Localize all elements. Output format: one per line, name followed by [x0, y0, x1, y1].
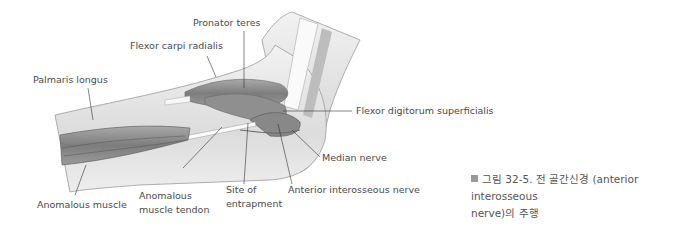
figure-caption: 그림 32-5. 전 골간신경 (anterior interosseous n… — [471, 171, 691, 222]
label-palmaris-longus: Palmaris longus — [33, 74, 108, 86]
bullet-square-icon — [471, 175, 478, 182]
label-flexor-carpi-radialis: Flexor carpi radialis — [130, 40, 223, 52]
label-site-of-entrapment-line2: entrapment — [226, 198, 282, 210]
caption-line2: nerve)의 주행 — [471, 205, 691, 222]
label-median-nerve: Median nerve — [322, 152, 387, 164]
label-site-of-entrapment-line1: Site of — [226, 184, 256, 196]
label-anomalous-muscle-tendon-line1: Anomalous — [139, 190, 192, 202]
label-pronator-teres: Pronator teres — [193, 17, 260, 29]
caption-line1: 그림 32-5. 전 골간신경 (anterior interosseous — [471, 173, 638, 202]
label-anterior-interosseous-nerve: Anterior interosseous nerve — [288, 184, 420, 196]
label-flexor-digitorum-superficialis: Flexor digitorum superficialis — [356, 105, 494, 117]
label-anomalous-muscle-tendon-line2: muscle tendon — [139, 204, 209, 216]
label-anomalous-muscle: Anomalous muscle — [37, 199, 127, 211]
